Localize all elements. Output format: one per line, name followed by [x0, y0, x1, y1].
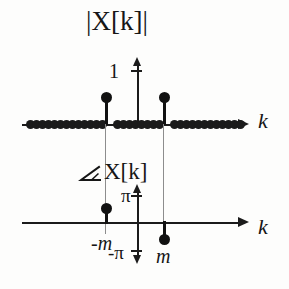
phase-plot-title: X[k] — [104, 160, 147, 183]
phase-impulse-dot-positive-m — [159, 234, 170, 245]
phase-vertical-axis-arrow-down-icon — [133, 255, 141, 264]
phase-horizontal-axis-arrow-icon — [238, 217, 249, 227]
magnitude-vertical-axis-arrow-icon — [133, 57, 141, 66]
magnitude-ytick-one-label: 1 — [109, 61, 119, 81]
phase-xtick-positive-m-label: m — [156, 246, 170, 266]
signal-figure: |X[k]| 1 k — [0, 0, 289, 289]
phase-vertical-axis — [137, 193, 139, 256]
phase-xtick-negative-m-label: -m — [91, 233, 112, 253]
magnitude-impulse-dot-negative-m — [101, 92, 112, 103]
guide-line-positive-m — [163, 124, 164, 234]
phase-vertical-axis-arrow-up-icon — [133, 184, 141, 193]
angle-icon — [78, 163, 102, 183]
phase-impulse-dot-negative-m — [101, 203, 112, 214]
magnitude-plot-title: |X[k]| — [86, 8, 148, 35]
magnitude-ytick-one-mark — [131, 70, 142, 72]
magnitude-impulse-dot-positive-m — [159, 92, 170, 103]
phase-ytick-negative-pi-mark — [131, 250, 142, 252]
phase-horizontal-axis — [22, 222, 240, 224]
phase-ytick-pi-label: π — [121, 186, 131, 205]
magnitude-vertical-axis — [137, 66, 139, 126]
phase-ytick-pi-mark — [131, 195, 142, 197]
phase-xaxis-label: k — [258, 216, 268, 238]
magnitude-xaxis-label: k — [258, 110, 268, 132]
